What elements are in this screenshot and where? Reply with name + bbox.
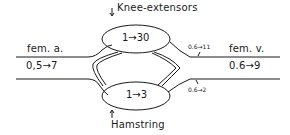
femoral-artery-label: fem. a. [27, 44, 63, 54]
femoral-vein-ratio: 0.6→9 [229, 61, 261, 71]
connector-right-outer [154, 52, 180, 86]
top-out-tick [198, 52, 200, 56]
femoral-artery-lower-line [16, 79, 108, 95]
knee-extensors-label: Knee-extensors [117, 3, 198, 13]
top-branch-ratio: 0.6→11 [188, 44, 210, 50]
connector-right-inner [152, 53, 176, 85]
femoral-vein-lower-line [168, 79, 280, 92]
knee-extensors-ratio: 1→30 [122, 33, 149, 43]
femoral-artery-ratio: 0,5→7 [26, 61, 58, 71]
bottom-branch-ratio: 0.6→2 [188, 87, 206, 93]
femoral-vein-label: fem. v. [229, 44, 265, 54]
hamstring-ratio: 1→3 [126, 90, 147, 100]
bottom-out-tick [196, 80, 198, 84]
hamstring-label: Hamstring [111, 120, 165, 130]
